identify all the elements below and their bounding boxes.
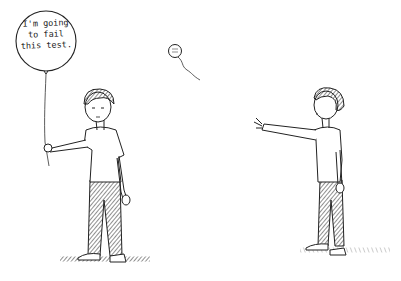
left-boy	[44, 89, 150, 262]
right-boy	[254, 88, 390, 255]
comic-panel: I'm going to fail this test.	[0, 0, 401, 281]
balloon-caption-line-3: this test.	[16, 39, 76, 52]
balloon-caption: I'm going to fail this test.	[15, 17, 76, 52]
small-balloon	[169, 45, 201, 81]
